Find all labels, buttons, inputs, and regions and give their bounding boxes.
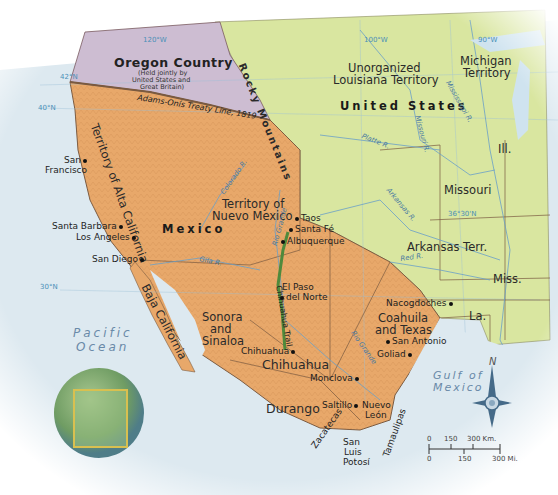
city-goliad: Goliad bbox=[377, 350, 414, 359]
city-dot bbox=[354, 404, 358, 408]
city-label: Goliad bbox=[377, 349, 406, 359]
city-label: Santa Barbara bbox=[52, 221, 117, 231]
city-saltillo: Saltillo bbox=[322, 401, 360, 410]
city-albuquerque: Albuquerque bbox=[279, 237, 345, 246]
gulf-of-mexico-label-1: Gulf of bbox=[433, 370, 484, 382]
city-dot bbox=[408, 353, 412, 357]
gulf-of-mexico-label-2: Mexico bbox=[433, 382, 484, 394]
sonora-label-3: Sinaloa bbox=[202, 335, 244, 347]
pacific-ocean-label-2: Ocean bbox=[76, 341, 129, 354]
lon-90-label: 90°W bbox=[478, 37, 497, 44]
locator-globe bbox=[54, 368, 144, 458]
san-luis-potosi-label-3: Potosí bbox=[343, 458, 370, 467]
oregon-note-3: Great Britain) bbox=[140, 84, 184, 91]
city-santa-fe: Santa Fé bbox=[287, 225, 334, 234]
city-san-antonio: San Antonio bbox=[384, 337, 446, 346]
oregon-country-label: Oregon Country bbox=[114, 56, 233, 69]
city-dot bbox=[132, 236, 136, 240]
city-dot bbox=[83, 159, 87, 163]
lat-40-label: 40°N bbox=[38, 105, 56, 112]
city-label: Los Angeles bbox=[76, 232, 130, 242]
city-dot bbox=[140, 258, 144, 262]
compass-north-label: N bbox=[489, 357, 496, 368]
scale-km-300: 300 Km. bbox=[467, 436, 496, 443]
city-dot bbox=[295, 217, 299, 221]
city-los-angeles: Los Angeles bbox=[76, 233, 138, 242]
lon-100-label: 100°W bbox=[364, 37, 388, 44]
city-nacogdoches: Nacogdoches bbox=[386, 299, 455, 308]
pacific-ocean-label-1: Pacific bbox=[73, 327, 133, 340]
scale-mi-300: 300 Mi. bbox=[492, 456, 518, 463]
city-label: Saltillo bbox=[322, 400, 352, 410]
city-label: San bbox=[64, 155, 81, 165]
city-taos: Taos bbox=[293, 214, 321, 223]
city-label: Monclova bbox=[310, 373, 353, 383]
city-monclova: Monclova bbox=[310, 374, 361, 383]
city-label: Santa Fé bbox=[295, 224, 334, 234]
coahuila-texas-label-2: and Texas bbox=[375, 324, 432, 336]
lat-36-30-label: 36°30'N bbox=[448, 211, 476, 218]
city-dot bbox=[355, 377, 359, 381]
lat-30-label: 30°N bbox=[40, 284, 58, 291]
city-dot bbox=[291, 350, 295, 354]
city-dot bbox=[119, 225, 123, 229]
scale-mi-150: 150 bbox=[458, 456, 471, 463]
nuevo-leon-label-2: León bbox=[365, 411, 387, 420]
missouri-label: Missouri bbox=[444, 184, 491, 196]
lat-42-label: 42°N bbox=[60, 74, 78, 81]
city-dot bbox=[289, 228, 293, 232]
city-label: Taos bbox=[301, 213, 321, 223]
michigan-territory-label-2: Territory bbox=[463, 67, 511, 79]
chihuahua-state-label: Chihuahua bbox=[262, 358, 329, 371]
scale-km-0: 0 bbox=[427, 436, 431, 443]
mississippi-label: Miss. bbox=[493, 273, 522, 285]
mexico-label: Mexico bbox=[162, 223, 225, 235]
lon-120-label: 120°W bbox=[143, 37, 167, 44]
city-santa-barbara: Santa Barbara bbox=[52, 222, 125, 231]
city-dot bbox=[281, 240, 285, 244]
city-label: Chihuahua bbox=[241, 346, 289, 356]
city-label: del Norte bbox=[286, 292, 328, 302]
scale-mi-0: 0 bbox=[427, 456, 431, 463]
unorganized-louisiana-label-2: Louisiana Territory bbox=[333, 74, 439, 86]
city-label: Albuquerque bbox=[287, 236, 345, 246]
scale-km-150: 150 bbox=[444, 436, 457, 443]
city-dot bbox=[449, 302, 453, 306]
city-dot bbox=[386, 340, 390, 344]
city-label: San Antonio bbox=[392, 336, 446, 346]
city-san-diego: San Diego bbox=[92, 255, 146, 264]
city-label: San Diego bbox=[92, 254, 138, 264]
city-label: Nacogdoches bbox=[386, 298, 447, 308]
durango-label: Durango bbox=[266, 402, 320, 415]
illinois-label: Ill. bbox=[498, 143, 511, 155]
louisiana-label: La. bbox=[469, 310, 486, 322]
city-chihuahua: Chihuahua bbox=[241, 347, 297, 356]
city-san-francisco-2: Francisco bbox=[45, 166, 87, 175]
united-states-label: United States bbox=[340, 100, 468, 112]
